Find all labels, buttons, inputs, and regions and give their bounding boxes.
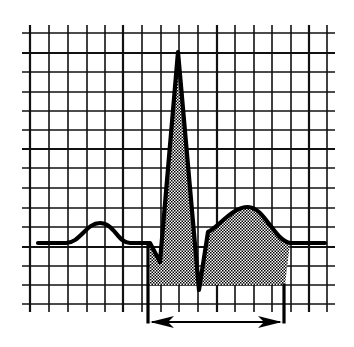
ecg-canvas — [0, 0, 354, 347]
shaded-qrs-t-area — [150, 52, 290, 290]
ecg-diagram: ECG waveform on grid with shaded QRS-T r… — [0, 0, 354, 347]
